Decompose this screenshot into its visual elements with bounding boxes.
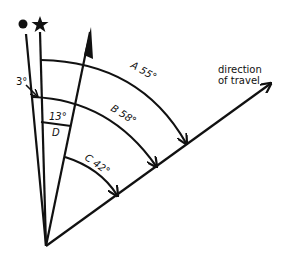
direction-of-travel-line bbox=[46, 84, 270, 246]
dot-icon bbox=[19, 20, 28, 29]
angle-diagram: direction of travel A 55° B 58° C 42° 13… bbox=[0, 0, 282, 260]
label-direction: direction bbox=[218, 64, 262, 75]
arrowhead-icon bbox=[84, 27, 93, 59]
label-angle-d: D bbox=[52, 127, 60, 138]
star-icon bbox=[32, 16, 49, 32]
label-angle-d-value: 13° bbox=[49, 111, 67, 122]
label-angle-a: A 55° bbox=[128, 59, 158, 83]
arc-d bbox=[41, 122, 71, 126]
label-small-angle: 3° bbox=[16, 76, 27, 87]
label-of-travel: of travel bbox=[218, 75, 260, 86]
